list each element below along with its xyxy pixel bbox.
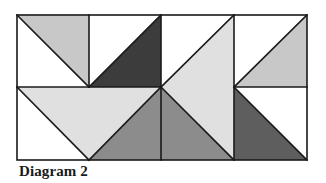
diagram-caption: Diagram 2 (19, 164, 88, 179)
tiling-diagram (0, 0, 326, 183)
